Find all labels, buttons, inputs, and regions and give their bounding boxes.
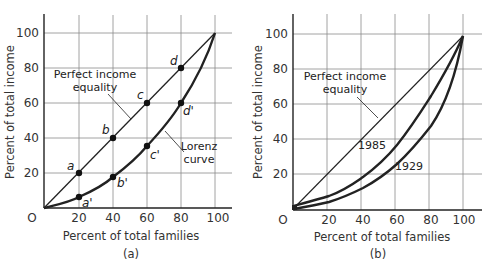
xtick-b: O bbox=[278, 213, 287, 227]
ytick-a: 20 bbox=[24, 166, 39, 180]
equality-line-a bbox=[44, 33, 215, 208]
point-label: d bbox=[170, 54, 178, 68]
xtick-a: 100 bbox=[207, 211, 230, 225]
chart-b: 100 80 60 40 20 O 20 40 60 80 100 Percen… bbox=[251, 14, 482, 261]
leader-line-equality-a bbox=[108, 94, 131, 119]
lorenz-figure: 100 80 60 40 20 O 20 40 60 80 100 Percen… bbox=[0, 0, 484, 263]
annotation-equality-a: equality bbox=[73, 81, 118, 94]
label-1985: 1985 bbox=[358, 139, 386, 152]
point-label: a bbox=[67, 159, 74, 173]
point-label: b bbox=[102, 123, 110, 137]
ytick-a: 80 bbox=[24, 61, 39, 75]
equality-line-b bbox=[295, 36, 463, 207]
point-label: b' bbox=[117, 176, 128, 190]
origin-marker-b bbox=[292, 205, 297, 210]
annotation-lorenz-a: Lorenz bbox=[181, 140, 218, 153]
xtick-b: 20 bbox=[321, 213, 336, 227]
annotation-equality-a: Perfect income bbox=[54, 68, 137, 81]
xtick-b: 60 bbox=[389, 213, 404, 227]
caption-a: (a) bbox=[123, 247, 139, 261]
point-label: d' bbox=[183, 104, 194, 118]
xtick-a: 40 bbox=[105, 211, 120, 225]
ytick-b: 40 bbox=[273, 132, 288, 146]
xtick-a: 60 bbox=[139, 211, 154, 225]
x-axis-label-b: Percent of total families bbox=[314, 230, 451, 244]
ytick-a: 40 bbox=[24, 131, 39, 145]
annotation-equality-b: equality bbox=[323, 83, 368, 96]
point-label: a' bbox=[82, 196, 93, 210]
point-label: c bbox=[137, 88, 144, 102]
label-1929: 1929 bbox=[395, 160, 423, 173]
annotation-equality-b: Perfect income bbox=[304, 70, 387, 83]
ytick-b: 80 bbox=[273, 62, 288, 76]
xtick-b: 100 bbox=[453, 213, 476, 227]
ytick-a: 100 bbox=[16, 26, 39, 40]
chart-a: 100 80 60 40 20 O 20 40 60 80 100 Percen… bbox=[3, 14, 232, 261]
leader-line-equality-b bbox=[357, 97, 378, 118]
xtick-a: 20 bbox=[71, 211, 86, 225]
ytick-b: 20 bbox=[273, 167, 288, 181]
ytick-b: 60 bbox=[273, 97, 288, 111]
ytick-b: 100 bbox=[265, 27, 288, 41]
x-axis-label-a: Percent of total families bbox=[63, 229, 200, 243]
xtick-a: 80 bbox=[173, 211, 188, 225]
xtick-a: O bbox=[27, 211, 36, 225]
annotation-lorenz-a: curve bbox=[184, 153, 215, 166]
xtick-b: 40 bbox=[355, 213, 370, 227]
point-label: c' bbox=[150, 148, 160, 162]
xtick-b: 80 bbox=[423, 213, 438, 227]
y-axis-label-b: Percent of total income bbox=[251, 45, 265, 179]
caption-b: (b) bbox=[370, 247, 386, 261]
ytick-a: 60 bbox=[24, 96, 39, 110]
y-axis-label-a: Percent of total income bbox=[3, 45, 17, 179]
